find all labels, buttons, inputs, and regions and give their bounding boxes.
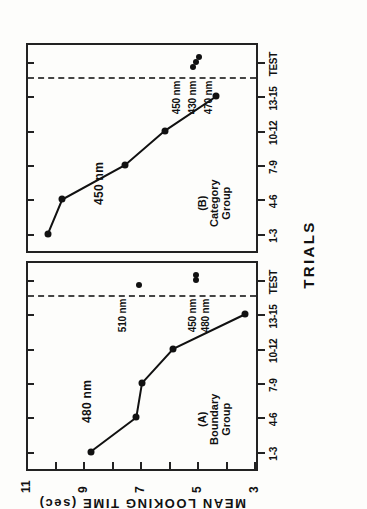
x-axis-tick-top bbox=[26, 349, 34, 351]
data-point bbox=[161, 127, 168, 134]
figure: 480 nm (A) Boundary Group 510 nm450 nm48… bbox=[0, 0, 367, 509]
x-axis-tick-top bbox=[26, 234, 34, 236]
y-axis-tick bbox=[226, 462, 228, 471]
x-axis-tick-label: 1-3 bbox=[268, 229, 279, 243]
data-point bbox=[213, 93, 220, 100]
series-label-a: 480 nm bbox=[80, 380, 94, 423]
x-axis-tick-label: 1-3 bbox=[268, 447, 279, 461]
panel-caption-b-name: Category bbox=[208, 179, 220, 227]
x-axis-tick-label: 13-15 bbox=[268, 304, 279, 328]
x-axis-tick bbox=[257, 383, 265, 385]
y-axis-tick bbox=[169, 462, 171, 471]
x-axis-tick bbox=[257, 97, 265, 99]
y-axis-tick-label: 9 bbox=[76, 486, 90, 493]
rotated-figure-wrapper: 480 nm (A) Boundary Group 510 nm450 nm48… bbox=[0, 0, 367, 509]
test-divider-b bbox=[28, 77, 256, 79]
data-point bbox=[59, 196, 66, 203]
test-point-label: 480 nm bbox=[200, 299, 211, 332]
x-axis-tick-top bbox=[26, 97, 34, 99]
panel-caption-a-name: Boundary bbox=[208, 394, 220, 445]
data-point bbox=[87, 448, 94, 455]
x-axis-tick-top bbox=[26, 131, 34, 133]
y-axis-tick-label: 3 bbox=[247, 486, 261, 493]
x-axis-tick-top bbox=[26, 200, 34, 202]
y-axis-tick bbox=[26, 462, 28, 471]
data-point bbox=[241, 311, 248, 318]
x-axis-tick bbox=[257, 315, 265, 317]
x-axis-tick bbox=[257, 349, 265, 351]
x-axis-tick-label: 4-6 bbox=[268, 413, 279, 427]
data-point bbox=[121, 162, 128, 169]
x-axis-tick-top bbox=[26, 315, 34, 317]
test-point-label: 430 nm bbox=[187, 81, 198, 114]
y-axis-tick-label: 11 bbox=[19, 480, 33, 493]
x-axis-tick bbox=[257, 418, 265, 420]
test-point-label: 450 nm bbox=[171, 81, 182, 114]
x-axis-tick-label: 4-6 bbox=[268, 195, 279, 209]
x-axis-tick bbox=[257, 452, 265, 454]
x-axis-title: TRIALS bbox=[300, 0, 317, 509]
x-axis-tick bbox=[257, 234, 265, 236]
x-axis-tick-label: 7-9 bbox=[268, 378, 279, 392]
test-point-label: 450 nm bbox=[187, 299, 198, 332]
data-point bbox=[44, 230, 51, 237]
y-axis-tick bbox=[140, 462, 142, 471]
data-point bbox=[133, 414, 140, 421]
x-axis-tick-top bbox=[26, 452, 34, 454]
x-axis-tick-label: 10-12 bbox=[268, 121, 279, 145]
test-data-point bbox=[196, 54, 202, 60]
x-axis-tick-label: 13-15 bbox=[268, 86, 279, 110]
x-axis-tick-top bbox=[26, 383, 34, 385]
y-axis-tick bbox=[83, 462, 85, 471]
y-axis-tick bbox=[55, 462, 57, 471]
x-axis-tick bbox=[257, 62, 265, 64]
x-axis-tick-top bbox=[26, 280, 34, 282]
data-point bbox=[139, 380, 146, 387]
y-axis-tick bbox=[112, 462, 114, 471]
x-axis-tick-top bbox=[26, 418, 34, 420]
y-axis-title: MEAN LOOKING TIME (sec) bbox=[0, 496, 292, 509]
test-data-point bbox=[136, 282, 142, 288]
x-axis-tick-label: TEST bbox=[268, 52, 279, 76]
panel-category-group: 450 nm (B) Category Group 450 nm430 nm47… bbox=[26, 43, 258, 253]
y-axis-tick-label: 7 bbox=[133, 486, 147, 493]
panel-caption-a-id: (A) bbox=[196, 394, 208, 445]
y-axis-tick bbox=[254, 462, 256, 471]
test-data-point bbox=[193, 272, 199, 278]
test-divider-a bbox=[28, 295, 256, 297]
plot-area-a: 480 nm (A) Boundary Group 510 nm450 nm48… bbox=[28, 263, 256, 469]
panel-boundary-group: 480 nm (A) Boundary Group 510 nm450 nm48… bbox=[26, 261, 258, 471]
panel-caption-b: (B) Category Group bbox=[196, 179, 232, 227]
y-axis-tick-label: 5 bbox=[190, 486, 204, 493]
data-point bbox=[170, 345, 177, 352]
panel-caption-a-group: Group bbox=[220, 394, 232, 445]
x-axis-tick-label: 10-12 bbox=[268, 339, 279, 363]
x-axis-tick bbox=[257, 280, 265, 282]
x-axis-tick-label: TEST bbox=[268, 270, 279, 294]
x-axis-tick-label: 7-9 bbox=[268, 160, 279, 174]
x-axis-tick-top bbox=[26, 165, 34, 167]
panel-caption-b-id: (B) bbox=[196, 179, 208, 227]
x-axis-tick bbox=[257, 200, 265, 202]
x-axis-tick-top bbox=[26, 62, 34, 64]
panel-caption-a: (A) Boundary Group bbox=[196, 394, 232, 445]
panel-caption-b-group: Group bbox=[220, 179, 232, 227]
x-axis-tick bbox=[257, 165, 265, 167]
plot-area-b: 450 nm (B) Category Group 450 nm430 nm47… bbox=[28, 45, 256, 251]
y-axis-tick bbox=[197, 462, 199, 471]
x-axis-tick bbox=[257, 131, 265, 133]
test-point-label: 510 nm bbox=[117, 299, 128, 332]
series-label-b: 450 nm bbox=[92, 162, 106, 205]
